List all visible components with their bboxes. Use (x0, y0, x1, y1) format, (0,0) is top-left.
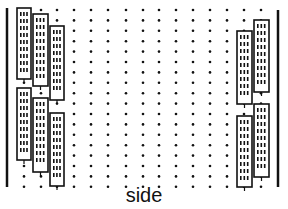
window (56, 30, 58, 34)
window (26, 33, 28, 37)
grid-dot (192, 50, 195, 53)
window (261, 129, 263, 133)
window (20, 148, 22, 152)
grid-dot (142, 82, 145, 85)
window (36, 123, 38, 127)
grid-dot (175, 9, 178, 12)
window (43, 18, 45, 22)
window (43, 130, 45, 134)
window (53, 37, 55, 41)
window (36, 60, 38, 64)
grid-dot (142, 144, 145, 147)
window (26, 19, 28, 23)
window (40, 46, 42, 50)
grid-dot (90, 134, 93, 137)
grid-dot (243, 9, 246, 12)
window (20, 26, 22, 30)
grid-dot (56, 19, 59, 22)
grid-dot (23, 175, 26, 178)
grid-dot (226, 82, 229, 85)
window (59, 79, 61, 83)
window (247, 49, 249, 53)
grid-dot (175, 102, 178, 105)
window (244, 70, 246, 74)
window (247, 63, 249, 67)
grid-dot (192, 19, 195, 22)
grid-dot (23, 165, 26, 168)
grid-dot (175, 50, 178, 53)
window (40, 53, 42, 57)
window (20, 99, 22, 103)
window (53, 72, 55, 76)
grid-dot (125, 144, 128, 147)
window (23, 61, 25, 65)
window (247, 176, 249, 180)
grid-dot (226, 134, 229, 137)
window (20, 141, 22, 145)
window (23, 134, 25, 138)
window (257, 122, 259, 126)
grid-dot (192, 30, 195, 33)
grid-dot (209, 40, 212, 43)
grid-dot (73, 102, 76, 105)
grid-dot (192, 9, 195, 12)
window (247, 141, 249, 145)
grid-dot (175, 40, 178, 43)
window (23, 127, 25, 131)
window (40, 144, 42, 148)
diagram-caption: side (0, 184, 288, 207)
window (261, 122, 263, 126)
grid-dot (107, 144, 110, 147)
grid-dot (125, 92, 128, 95)
window (240, 127, 242, 131)
grid-dot (73, 92, 76, 95)
buildings-group (17, 8, 269, 191)
window (264, 73, 266, 77)
grid-dot (142, 175, 145, 178)
window (53, 86, 55, 90)
window (264, 45, 266, 49)
grid-dot (90, 154, 93, 157)
window (53, 152, 55, 156)
grid-dot (40, 9, 43, 12)
grid-dot (73, 144, 76, 147)
window (257, 164, 259, 168)
window (247, 120, 249, 124)
window (43, 46, 45, 50)
grid-dot (125, 134, 128, 137)
window (240, 169, 242, 173)
grid-dot (158, 9, 161, 12)
grid-dot (226, 102, 229, 105)
grid-dot (107, 113, 110, 116)
grid-dot (226, 154, 229, 157)
window (40, 151, 42, 155)
window (56, 79, 58, 83)
grid-dot (125, 123, 128, 126)
window (257, 80, 259, 84)
window (59, 131, 61, 135)
window (257, 73, 259, 77)
window (240, 148, 242, 152)
grid-dot (142, 30, 145, 33)
window (53, 145, 55, 149)
window (56, 131, 58, 135)
grid-dot (175, 175, 178, 178)
window (36, 46, 38, 50)
window (261, 108, 263, 112)
window (261, 24, 263, 28)
window (53, 173, 55, 177)
grid-dot (192, 71, 195, 74)
grid-dot (125, 113, 128, 116)
grid-dot (142, 123, 145, 126)
window (244, 176, 246, 180)
building (33, 14, 48, 90)
grid-dot (158, 175, 161, 178)
grid-dot (192, 61, 195, 64)
window (257, 52, 259, 56)
window (240, 35, 242, 39)
grid-dot (158, 50, 161, 53)
grid-dot (192, 82, 195, 85)
window (244, 169, 246, 173)
grid-dot (90, 61, 93, 64)
window (26, 141, 28, 145)
